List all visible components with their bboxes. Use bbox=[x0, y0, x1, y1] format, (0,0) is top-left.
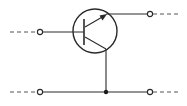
input-common-terminal bbox=[37, 89, 42, 94]
output-emitter-terminal bbox=[147, 11, 152, 16]
transistor-envelope bbox=[73, 9, 117, 53]
collector-ground-junction-dot bbox=[104, 90, 108, 94]
collector-line bbox=[85, 37, 106, 49]
emitter-arrow-icon bbox=[100, 14, 108, 21]
npn-transistor-symbol bbox=[73, 9, 117, 53]
input-base-terminal bbox=[37, 29, 42, 34]
transistor-circuit-diagram: NPN transistor common-collector (emitter… bbox=[0, 0, 187, 106]
output-common-terminal bbox=[147, 89, 152, 94]
